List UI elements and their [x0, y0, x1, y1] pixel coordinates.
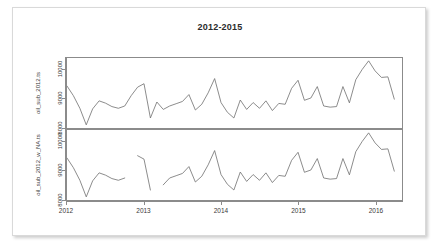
series-line-bottom-segment-0	[67, 158, 125, 197]
y-tick-label-9000: 9000	[57, 91, 63, 104]
series-line-top	[67, 61, 394, 125]
x-tick-2014	[221, 201, 222, 205]
y-tick-label-8000: 8000	[57, 193, 63, 206]
series-bottom-svg	[67, 130, 402, 200]
y-tick-label-10000: 10000	[57, 132, 63, 149]
panel-label-bottom: oil_sub_2012_w_NA.ts	[31, 129, 45, 201]
series-line-bottom-segment-2	[163, 133, 394, 190]
x-tick-label-2012: 2012	[59, 207, 73, 214]
series-line-bottom-segment-1	[138, 156, 151, 190]
x-tick-2015	[298, 201, 299, 205]
y-axis-bottom: 8000900010000	[57, 129, 66, 201]
x-axis: 20122013201420152016	[66, 201, 403, 223]
x-tick-label-2013: 2013	[136, 207, 150, 214]
x-tick-label-2016: 2016	[369, 207, 383, 214]
y-axis-top: 8000900010000	[57, 57, 66, 129]
x-axis-line	[66, 201, 403, 202]
panel-label-bottom-text: oil_sub_2012_w_NA.ts	[35, 134, 41, 195]
page-title: 2012-2015	[13, 22, 427, 32]
panel-label-top-text: oil_sub_2012.ts	[35, 72, 41, 114]
chart-screenshot: 2012-2015 oil_sub_2012.ts oil_sub_2012_w…	[0, 0, 444, 251]
y-tick-label-9000: 9000	[57, 163, 63, 176]
x-tick-label-2015: 2015	[291, 207, 305, 214]
panel-label-top: oil_sub_2012.ts	[31, 57, 45, 129]
page-frame: 2012-2015 oil_sub_2012.ts oil_sub_2012_w…	[12, 7, 426, 236]
plot-panel-bottom	[66, 129, 403, 201]
x-tick-2016	[376, 201, 377, 205]
x-tick-2012	[66, 201, 67, 205]
series-top-svg	[67, 58, 402, 128]
plot-panel-top	[66, 57, 403, 129]
x-tick-2013	[144, 201, 145, 205]
x-tick-label-2014: 2014	[214, 207, 228, 214]
y-tick-label-10000: 10000	[57, 60, 63, 77]
